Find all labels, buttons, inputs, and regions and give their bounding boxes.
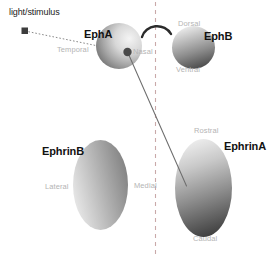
lateral-axis-label: Lateral bbox=[45, 183, 69, 191]
epha-label: EphA bbox=[84, 29, 112, 40]
caudal-axis-label: Caudal bbox=[193, 235, 217, 243]
nasal-origin-dot bbox=[123, 48, 131, 56]
dorsal-axis-label: Dorsal bbox=[178, 20, 200, 28]
light-stimulus-label: light/stimulus bbox=[9, 8, 60, 17]
ventral-axis-label: Ventral bbox=[176, 66, 200, 74]
stimulus-square-marker bbox=[22, 28, 29, 35]
ephrina-label: EphrinA bbox=[224, 141, 266, 152]
rostral-axis-label: Rostral bbox=[194, 127, 218, 135]
medial-axis-label: Medial bbox=[134, 182, 157, 190]
nasal-axis-label: Nasal bbox=[133, 48, 153, 56]
ephrinb-label: EphrinB bbox=[42, 146, 84, 157]
ephb-label: EphB bbox=[204, 31, 232, 42]
ephrina-target-ellipse bbox=[175, 139, 232, 237]
eph-ephrin-diagram: light/stimulus EphA Temporal Nasal Dorsa… bbox=[0, 0, 272, 257]
temporal-axis-label: Temporal bbox=[57, 46, 89, 54]
brain-arc bbox=[142, 26, 171, 37]
